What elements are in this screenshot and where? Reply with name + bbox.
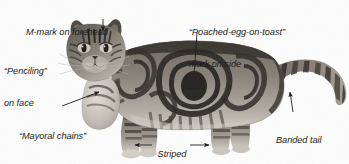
figure-canvas: M-mark on forehead “Poached-egg-on-toast… [0, 0, 349, 164]
label-striped-legs: Striped legs [155, 128, 189, 164]
label-poached-egg: “Poached-egg-on-toast” mark on side [189, 6, 285, 91]
label-m-mark-line-1: M-mark on forehead [26, 27, 108, 38]
label-penciling-line-1: “Penciling” [4, 66, 47, 77]
label-striped-legs-line-1: Striped [155, 149, 189, 160]
label-mayoral-chains-line-1: “Mayoral chains” [19, 131, 86, 142]
label-penciling-line-2: on face [4, 98, 47, 109]
label-poached-egg-line-2: mark on side [189, 59, 285, 70]
label-poached-egg-line-1: “Poached-egg-on-toast” [189, 27, 285, 38]
label-banded-tail: Banded tail [276, 114, 321, 164]
label-mayoral-chains: “Mayoral chains” on chest [19, 110, 86, 164]
label-banded-tail-line-1: Banded tail [276, 135, 321, 146]
label-mayoral-chains-line-2: on chest [19, 163, 86, 164]
